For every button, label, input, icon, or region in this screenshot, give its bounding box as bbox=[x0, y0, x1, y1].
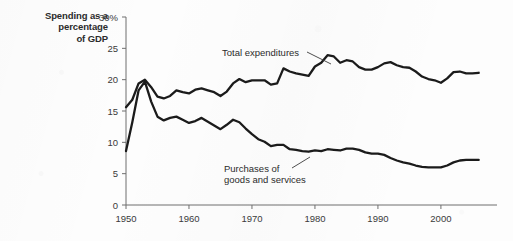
annotation-total-expenditures-label: Total expenditures bbox=[222, 47, 299, 58]
x-axis-tick-labels: 195019601970198019902000 bbox=[115, 213, 451, 224]
annotation-purchases-leader-line bbox=[292, 157, 310, 168]
line-chart-plot: 051015202530% 195019601970198019902000 T… bbox=[0, 0, 513, 241]
x-tick-label-2000: 2000 bbox=[430, 213, 451, 224]
x-tick-label-1960: 1960 bbox=[178, 213, 199, 224]
annotation-purchases-label-line-2: goods and services bbox=[224, 174, 306, 185]
y-tick-label-10: 10 bbox=[107, 137, 118, 148]
x-tick-label-1970: 1970 bbox=[241, 213, 262, 224]
y-tick-label-0: 0 bbox=[113, 200, 118, 211]
annotation-total-expenditures-leader-line bbox=[307, 52, 331, 64]
y-tick-label-15: 15 bbox=[107, 106, 118, 117]
y-tick-label-25: 25 bbox=[107, 43, 118, 54]
x-axis: 195019601970198019902000 bbox=[115, 205, 497, 224]
annotation-purchases-label-line-1: Purchases of bbox=[224, 163, 280, 174]
x-tick-label-1980: 1980 bbox=[304, 213, 325, 224]
series-line-total-expenditures bbox=[126, 55, 479, 107]
y-axis: 051015202530% bbox=[99, 12, 126, 211]
y-axis-tick-labels: 051015202530% bbox=[99, 12, 119, 211]
chart-screenshot: Spending as a percentage of GDP 05101520… bbox=[0, 0, 513, 241]
x-axis-ticks bbox=[126, 205, 441, 209]
x-tick-label-1990: 1990 bbox=[367, 213, 388, 224]
y-tick-label-5: 5 bbox=[113, 168, 118, 179]
data-series-group bbox=[126, 55, 479, 167]
y-axis-ticks bbox=[122, 17, 126, 205]
y-tick-label-30: 30% bbox=[99, 12, 119, 23]
y-tick-label-20: 20 bbox=[107, 74, 118, 85]
series-line-purchases-goods-services bbox=[126, 82, 479, 168]
x-tick-label-1950: 1950 bbox=[115, 213, 136, 224]
